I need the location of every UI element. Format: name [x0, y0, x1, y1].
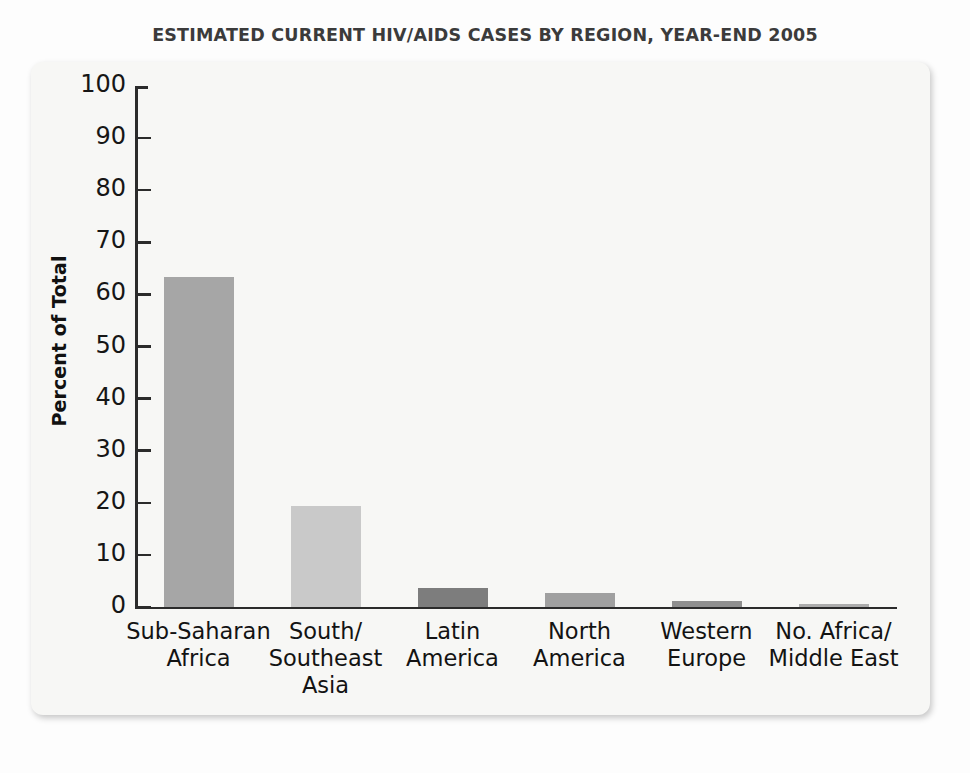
y-axis-title: Percent of Total: [48, 231, 70, 451]
y-axis-tick-label: 80: [56, 174, 126, 202]
bar: [672, 601, 742, 607]
bar: [799, 604, 869, 607]
y-axis-tick-label: 0: [56, 591, 126, 619]
x-axis-category-label: No. Africa/ Middle East: [758, 618, 909, 672]
chart-figure: ESTIMATED CURRENT HIV/AIDS CASES BY REGI…: [0, 0, 970, 773]
y-axis-tick-label: 90: [56, 122, 126, 150]
axes-area: 0102030405060708090100 Percent of Total …: [0, 0, 970, 773]
y-axis-tick-label: 20: [56, 487, 126, 515]
bar: [291, 506, 361, 607]
y-axis-tick-label: 10: [56, 539, 126, 567]
bar: [418, 588, 488, 607]
bar: [164, 277, 234, 607]
bars-layer: [135, 86, 897, 607]
bar: [545, 593, 615, 607]
y-axis-tick-label: 100: [56, 70, 126, 98]
